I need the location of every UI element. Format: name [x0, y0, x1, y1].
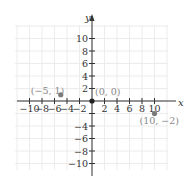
- point-label: (−5, 1): [31, 85, 65, 96]
- coordinate-plane: yx −10−8−6−4−2246810108642−4−6−8−10 (−5,…: [0, 0, 187, 189]
- x-axis-label: x: [178, 97, 184, 108]
- y-tick-label: 6: [82, 58, 88, 69]
- x-tick-label: 6: [126, 103, 132, 114]
- x-tick-label: −2: [72, 103, 86, 114]
- y-tick-label: 8: [82, 46, 88, 57]
- y-tick-label: −8: [74, 146, 88, 157]
- data-point: [89, 98, 94, 103]
- x-tick-label: 2: [101, 103, 107, 114]
- y-tick-label: −4: [74, 121, 88, 132]
- y-tick-label: −6: [74, 133, 88, 144]
- point-label: (10, −2): [140, 115, 180, 126]
- y-tick-label: 4: [82, 71, 88, 82]
- x-tick-label: 4: [114, 103, 120, 114]
- x-tick-label: 8: [139, 103, 145, 114]
- y-tick-label: −10: [68, 158, 88, 169]
- y-tick-label: 10: [76, 33, 88, 44]
- y-axis-label: y: [84, 12, 91, 23]
- y-tick-label: 2: [82, 83, 88, 94]
- point-label: (0, 0): [95, 86, 121, 97]
